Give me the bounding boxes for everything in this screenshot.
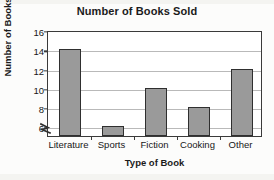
bar-other — [231, 69, 253, 136]
x-tick-label-fiction: Fiction — [133, 139, 176, 150]
x-tick-label-cooking: Cooking — [176, 139, 219, 150]
y-tick-mark — [44, 89, 48, 90]
axis-break-zigzag-icon — [39, 121, 53, 135]
plot-area: 1614121086 — [47, 31, 262, 137]
x-tick-label-other: Other — [219, 139, 262, 150]
y-tick-label: 16 — [14, 27, 44, 38]
bar-chart-figure: Number of Books Sold Number of Books 161… — [0, 0, 274, 180]
bar-fiction — [145, 88, 167, 136]
y-tick-mark — [44, 31, 48, 32]
scan-artifact-bottom — [0, 174, 274, 180]
y-tick-mark — [44, 70, 48, 71]
x-tick-label-literature: Literature — [47, 139, 90, 150]
y-tick-label: 14 — [14, 46, 44, 57]
y-tick-label: 12 — [14, 65, 44, 76]
chart-title: Number of Books Sold — [0, 5, 274, 17]
bar-literature — [59, 49, 81, 136]
bar-cooking — [188, 107, 210, 136]
y-tick-label: 10 — [14, 84, 44, 95]
x-axis-title: Type of Book — [47, 157, 262, 168]
y-tick-mark — [44, 51, 48, 52]
y-tick-mark — [44, 108, 48, 109]
y-tick-label: 8 — [14, 104, 44, 115]
scan-artifact-top — [0, 0, 274, 4]
bar-sports — [102, 126, 124, 136]
y-axis-title: Number of Books — [1, 0, 15, 91]
x-tick-label-sports: Sports — [90, 139, 133, 150]
